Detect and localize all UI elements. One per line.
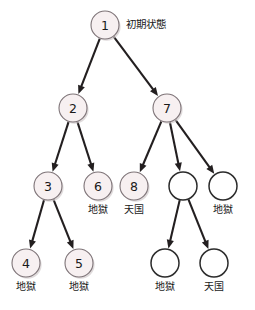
arrow-head-icon [87, 163, 94, 172]
arrow-head-icon [202, 240, 209, 249]
tree-edge [53, 199, 70, 242]
arrow-head-icon [29, 239, 36, 248]
tree-node-e2[interactable] [209, 172, 237, 200]
tree-canvas: 1初期状態2736地獄8天国地獄4地獄5地獄地獄天国 [0, 0, 255, 310]
tree-edge [55, 122, 69, 165]
tree-edge [81, 39, 100, 88]
node-outcome-label: 天国 [204, 281, 224, 292]
tree-edge [175, 120, 210, 168]
arrow-head-icon [78, 85, 85, 94]
search-tree-diagram: 1初期状態2736地獄8天国地獄4地獄5地獄地獄天国 [0, 0, 255, 310]
arrow-head-icon [167, 239, 174, 248]
node-number-label: 7 [163, 101, 171, 116]
node-number-label: 5 [75, 256, 83, 271]
edges-layer [29, 37, 214, 249]
tree-edge [32, 200, 44, 242]
root-side-label: 初期状態 [126, 18, 166, 30]
node-outcome-label: 地獄 [155, 280, 175, 292]
tree-edge [170, 122, 179, 164]
arrow-head-icon [52, 163, 59, 172]
node-number-label: 6 [94, 179, 102, 194]
arrow-head-icon [175, 162, 182, 171]
node-number-label: 8 [130, 179, 138, 194]
tree-edge [143, 121, 162, 165]
tree-edge [170, 200, 180, 241]
tree-node-e3[interactable] [151, 249, 179, 277]
node-outcome-label: 地獄 [69, 280, 89, 292]
node-outcome-label: 地獄 [88, 203, 108, 215]
tree-edge [114, 37, 154, 91]
node-number-label: 3 [44, 179, 52, 194]
tree-edge [188, 199, 205, 242]
node-outcome-label: 地獄 [16, 280, 36, 292]
arrow-head-icon [67, 240, 74, 249]
tree-node-e1[interactable] [169, 172, 197, 200]
node-number-label: 1 [101, 18, 109, 33]
node-number-label: 2 [69, 101, 77, 116]
tree-edge [77, 122, 91, 165]
node-outcome-label: 地獄 [213, 203, 233, 215]
node-outcome-label: 天国 [124, 204, 144, 215]
tree-node-e4[interactable] [200, 249, 228, 277]
node-number-label: 4 [22, 256, 30, 271]
